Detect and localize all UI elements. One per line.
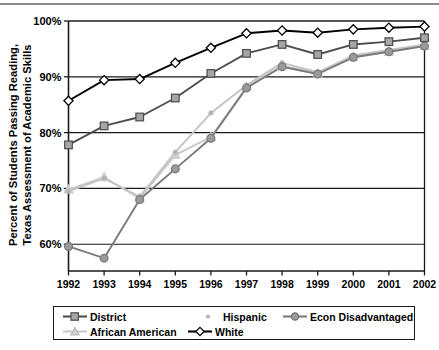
series-lines (69, 27, 425, 259)
data-point-marker (65, 243, 73, 251)
legend-row-1: District Hispanic Econ Disadvantaged (54, 309, 414, 324)
legend-label-african-american: African American (90, 326, 177, 338)
data-point-marker (173, 150, 178, 155)
data-point-marker (100, 254, 108, 262)
legend-item-district[interactable]: District (62, 309, 126, 324)
data-point-marker (421, 34, 429, 42)
data-point-marker (64, 96, 73, 105)
data-point-marker (278, 63, 286, 71)
white-swatch-icon (187, 325, 213, 338)
plot-area: 60%70%80%90%100% 19921993199419951996199… (0, 0, 439, 310)
data-point-marker (243, 50, 251, 58)
econ-disadvantaged-swatch-icon (282, 310, 308, 323)
y-tick-label: 60% (39, 238, 61, 250)
data-point-marker (278, 41, 286, 49)
x-tick-label: 2002 (413, 278, 437, 290)
data-point-marker (420, 22, 429, 31)
data-point-marker (100, 122, 108, 130)
y-tick-label: 70% (39, 182, 61, 194)
chart-legend: District Hispanic Econ Disadvantaged (53, 306, 415, 340)
y-tick-label: 90% (39, 71, 61, 83)
legend-label-district: District (90, 311, 126, 323)
data-point-marker (135, 74, 144, 83)
legend-item-white[interactable]: White (187, 324, 244, 339)
series-markers-econ-disadvantaged (65, 42, 429, 262)
x-tick-label: 1994 (128, 278, 152, 290)
data-point-marker (314, 70, 322, 78)
x-axis-ticks: 1992199319941995199619971998199920002001… (57, 271, 437, 290)
y-tick-label: 80% (39, 127, 61, 139)
legend-item-hispanic[interactable]: Hispanic (195, 309, 267, 324)
x-tick-label: 1996 (199, 278, 223, 290)
series-line-econ-disadvantaged (69, 46, 425, 258)
legend-item-econ-disadvantaged[interactable]: Econ Disadvantaged (282, 309, 413, 324)
data-point-marker (207, 134, 215, 142)
data-point-marker (208, 111, 213, 116)
chart-figure: Percent of Students Passing Reading, Tex… (0, 0, 439, 350)
data-point-marker (171, 165, 179, 173)
data-point-marker (384, 23, 393, 32)
series-markers-hispanic (66, 42, 427, 199)
district-swatch-icon (62, 310, 88, 323)
series-markers (64, 22, 429, 262)
data-point-marker (385, 48, 393, 56)
x-tick-label: 1999 (306, 278, 330, 290)
data-point-marker (171, 58, 180, 67)
data-point-marker (65, 141, 73, 149)
data-point-marker (349, 25, 358, 34)
data-point-marker (242, 29, 251, 38)
data-point-marker (350, 41, 358, 49)
data-point-marker (278, 26, 287, 35)
legend-label-econ-disadvantaged: Econ Disadvantaged (310, 311, 413, 323)
legend-label-hispanic: Hispanic (223, 311, 267, 323)
legend-label-white: White (215, 326, 244, 338)
series-markers-white (64, 22, 429, 105)
hispanic-swatch-icon (195, 310, 221, 323)
legend-row-2: African American White (54, 324, 414, 339)
legend-item-african-american[interactable]: African American (62, 324, 177, 339)
data-point-marker (102, 176, 107, 181)
data-point-marker (172, 94, 180, 102)
x-tick-label: 1995 (164, 278, 188, 290)
data-point-marker (385, 38, 393, 46)
y-axis-ticks: 60%70%80%90%100% (33, 15, 68, 250)
x-tick-label: 1993 (92, 278, 116, 290)
x-tick-label: 1998 (270, 278, 294, 290)
data-point-marker (243, 84, 251, 92)
data-point-marker (314, 51, 322, 59)
data-point-marker (66, 189, 71, 194)
data-point-marker (207, 70, 215, 78)
african-american-swatch-icon (62, 325, 88, 338)
data-point-marker (206, 43, 215, 52)
x-tick-label: 2001 (377, 278, 401, 290)
y-tick-label: 100% (33, 15, 61, 27)
data-point-marker (313, 28, 322, 37)
axis-frame (69, 21, 425, 271)
data-point-marker (421, 42, 429, 50)
data-point-marker (349, 53, 357, 61)
x-tick-label: 1997 (235, 278, 259, 290)
data-point-marker (136, 113, 144, 121)
data-point-marker (136, 196, 144, 204)
x-tick-label: 1992 (57, 278, 81, 290)
x-tick-label: 2000 (342, 278, 366, 290)
